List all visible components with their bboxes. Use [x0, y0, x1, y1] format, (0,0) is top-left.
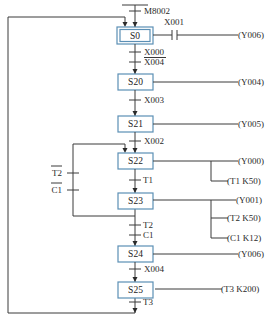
step-label-s23: S23 — [128, 196, 143, 206]
step-label-s22: S22 — [128, 156, 143, 166]
step-s24[interactable]: S24 — [118, 246, 153, 262]
transition-label-x004-not: X004 — [144, 57, 164, 67]
action-s20: (Y004) — [153, 77, 264, 87]
transition-label-x004: X004 — [144, 264, 164, 274]
action-label-y000: (Y000) — [238, 156, 264, 166]
action-s23: (Y001) (T2 K50) (C1 K12) — [153, 195, 262, 243]
action-label-t1-k50: (T1 K50) — [227, 176, 261, 186]
action-s21: (Y005) — [153, 119, 264, 129]
step-s25[interactable]: S25 — [118, 282, 153, 298]
transition-s21-s22: X002 — [129, 132, 164, 153]
step-s22[interactable]: S22 — [118, 153, 153, 169]
action-s25: (T3 K200) — [155, 284, 259, 294]
transition-label-x003: X003 — [144, 95, 164, 105]
transition-s23-s24: T2 C1 — [129, 216, 154, 246]
outer-loop-line — [8, 17, 135, 313]
transition-label-c1: C1 — [143, 230, 154, 240]
action-label-y004: (Y004) — [238, 77, 264, 87]
step-s23[interactable]: S23 — [118, 193, 153, 209]
step-s20[interactable]: S20 — [118, 74, 153, 90]
step-label-s0: S0 — [130, 31, 140, 41]
action-label-y005: (Y005) — [238, 119, 264, 129]
action-s22: (Y000) (T1 K50) — [153, 156, 264, 186]
step-s21[interactable]: S21 — [118, 116, 153, 132]
action-label-y006-s24: (Y006) — [238, 249, 264, 259]
action-label-y001: (Y001) — [236, 195, 262, 205]
action-label-t3-k200: (T3 K200) — [221, 284, 259, 294]
transition-s24-s25: X004 — [129, 262, 164, 282]
step-s0[interactable]: S0 — [117, 27, 153, 44]
transition-label-m8002: M8002 — [144, 6, 170, 16]
transition-label-t1: T1 — [143, 175, 153, 185]
action-s0: X001 (Y006) — [153, 17, 264, 40]
transition-label-x000: X000 — [144, 47, 164, 57]
action-s24: (Y006) — [153, 249, 264, 259]
action-label-t2-k50: (T2 K50) — [227, 213, 261, 223]
action-label-y006-s0: (Y006) — [238, 30, 264, 40]
transition-s22-s23: T1 — [129, 169, 153, 193]
step-label-s20: S20 — [128, 77, 143, 87]
step-label-s25: S25 — [128, 285, 143, 295]
action-label-c1-k12: (C1 K12) — [227, 233, 261, 243]
step-label-s24: S24 — [128, 249, 143, 259]
sfc-diagram: M8002 S0 X001 (Y006) X000 X004 S20 (Y0 — [0, 0, 276, 325]
contact-label-x001: X001 — [164, 17, 184, 27]
loop-label-c1-not: C1 — [51, 185, 62, 195]
transition-label-t3: T3 — [143, 297, 153, 307]
transition-s20-s21: X003 — [129, 90, 164, 116]
transition-label-x002: X002 — [144, 136, 164, 146]
loop-label-t2-not: T2 — [52, 168, 62, 178]
transition-s25-s0: T3 — [129, 297, 153, 313]
transition-s0-s20: X000 X004 — [129, 44, 166, 74]
transition-label-t2: T2 — [143, 220, 153, 230]
initial-transition: M8002 — [122, 5, 170, 27]
step-label-s21: S21 — [128, 119, 143, 129]
